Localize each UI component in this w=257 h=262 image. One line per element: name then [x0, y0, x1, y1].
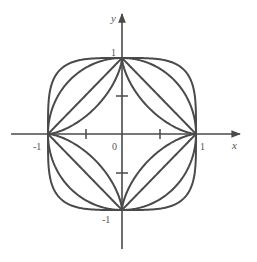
y-axis-label: y — [110, 12, 116, 24]
x-tick-pos1: 1 — [200, 141, 205, 152]
y-tick-pos1: 1 — [111, 47, 116, 58]
x-axis-label: x — [231, 139, 237, 151]
superellipse-diagram: y x 0 -1 1 1 -1 — [0, 0, 257, 262]
y-tick-neg1: -1 — [102, 214, 110, 225]
x-tick-neg1: -1 — [33, 141, 41, 152]
origin-label: 0 — [112, 141, 117, 152]
